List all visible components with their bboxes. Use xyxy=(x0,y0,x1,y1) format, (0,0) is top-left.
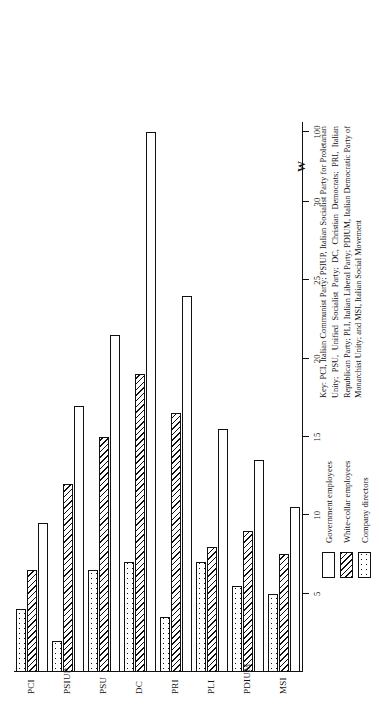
bar-pdium-series1 xyxy=(243,531,254,672)
bar-psiup-series1 xyxy=(63,484,74,672)
chart-legend: Government employeesWhite-collar employe… xyxy=(322,461,376,578)
category-label-psiup: PSIUP xyxy=(62,668,72,694)
value-axis xyxy=(302,122,303,672)
category-label-psu: PSU xyxy=(98,677,108,694)
bar-pci-series1 xyxy=(27,570,38,672)
legend-swatch-icon xyxy=(322,552,335,578)
legend-item: Company directors xyxy=(358,461,371,578)
axis-tick xyxy=(302,279,309,280)
bar-pli-series2 xyxy=(196,562,207,672)
bar-pri-series2 xyxy=(160,617,171,672)
legend-swatch-icon xyxy=(340,552,353,578)
bar-pci-series2 xyxy=(16,609,27,672)
bar-psu-series1 xyxy=(99,437,110,672)
bar-psu-series2 xyxy=(88,570,99,672)
bar-psu-series0 xyxy=(110,335,121,672)
axis-tick-label: 10 xyxy=(312,511,322,520)
axis-tick xyxy=(302,593,309,594)
category-label-pli: PLI xyxy=(206,680,216,694)
bar-psiup-series0 xyxy=(74,406,85,672)
axis-tick xyxy=(302,436,309,437)
category-label-msi: MSI xyxy=(278,677,288,694)
bar-msi-series0 xyxy=(290,508,301,673)
legend-label: Company directors xyxy=(360,477,370,543)
category-label-dc: DC xyxy=(134,681,144,694)
bar-pdium-series2 xyxy=(232,586,243,672)
bar-msi-series2 xyxy=(268,594,279,672)
bar-pli-series1 xyxy=(207,547,218,672)
category-label-pdium: PDIUM xyxy=(242,663,252,694)
plot-area: 51015202530100W PCIPSIUPPSUDCPRIPLIPDIUM… xyxy=(14,124,302,672)
bar-pdium-series0 xyxy=(254,461,265,673)
axis-break-symbol: W xyxy=(295,162,307,172)
axis-tick xyxy=(302,131,309,132)
axis-tick xyxy=(302,358,309,359)
axis-tick xyxy=(302,514,309,515)
bar-dc-series2 xyxy=(124,562,135,672)
bar-dc-series0 xyxy=(146,132,157,672)
bar-pri-series0 xyxy=(182,296,193,672)
legend-item: Government employees xyxy=(322,461,335,578)
bar-pri-series1 xyxy=(171,414,182,673)
axis-tick xyxy=(302,201,309,202)
bar-dc-series1 xyxy=(135,374,146,672)
chart-page: 51015202530100W PCIPSIUPPSUDCPRIPLIPDIUM… xyxy=(0,0,379,728)
legend-item: White-collar employees xyxy=(340,461,353,578)
category-label-pri: PRI xyxy=(170,679,180,694)
axis-tick-label: 5 xyxy=(312,591,322,595)
legend-label: Government employees xyxy=(324,461,334,543)
bar-pli-series0 xyxy=(218,429,229,672)
bar-msi-series1 xyxy=(279,555,290,673)
legend-label: White-collar employees xyxy=(342,461,352,543)
legend-swatch-icon xyxy=(358,552,371,578)
bar-pci-series0 xyxy=(38,523,49,672)
axis-tick-label: 15 xyxy=(312,433,322,442)
rotated-canvas: 51015202530100W PCIPSIUPPSUDCPRIPLIPDIUM… xyxy=(0,0,379,728)
category-label-pci: PCI xyxy=(26,679,36,694)
bar-psiup-series2 xyxy=(52,641,63,672)
chart-key: Key: PCI, Italian Communist Party; PSIUP… xyxy=(318,126,365,398)
